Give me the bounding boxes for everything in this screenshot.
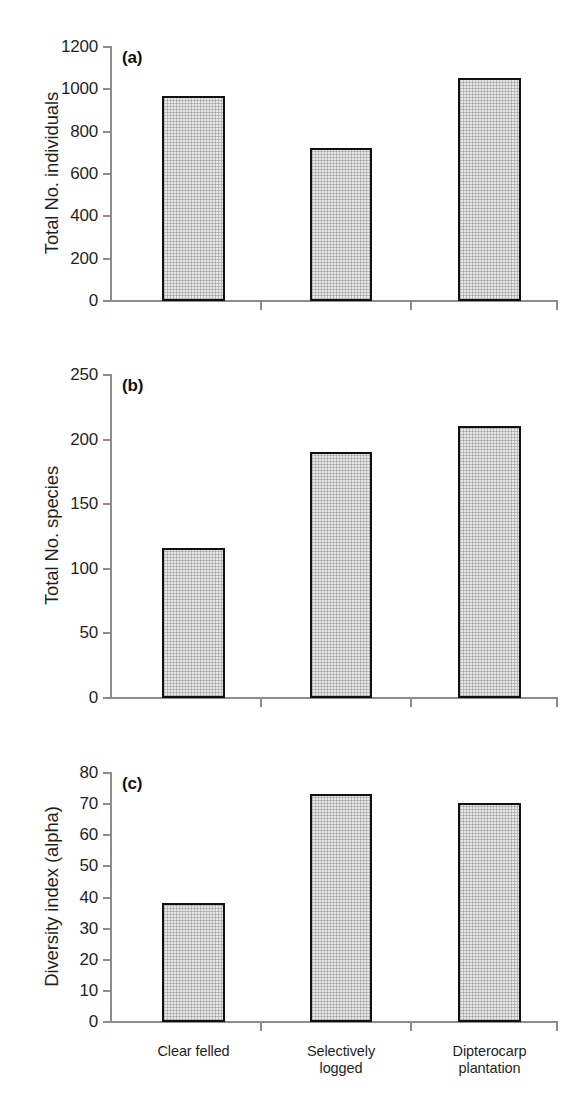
panel-a-y-tick-label: 400 xyxy=(70,207,98,224)
bar-b-0 xyxy=(162,548,225,698)
bar-c-1 xyxy=(310,794,372,1022)
panel-a-x-tick-end xyxy=(556,302,558,310)
bar-c-2 xyxy=(458,803,521,1022)
panel-a-y-tick-label: 0 xyxy=(89,292,98,309)
panel-c-y-tick xyxy=(103,897,110,899)
panel-b-y-tick-label: 100 xyxy=(70,560,98,577)
panel-b-y-tick-label: 0 xyxy=(89,689,98,706)
panel-a-plot-area: 020040060080010001200 xyxy=(0,0,578,345)
panel-b-y-tick xyxy=(103,632,110,634)
panel-b-x-tick xyxy=(410,699,412,707)
panel-a-tag: (a) xyxy=(122,48,142,68)
panel-c-y-axis-title: Diversity index (alpha) xyxy=(42,772,61,1021)
panel-c-tag: (c) xyxy=(122,774,142,794)
panel-a-y-tick xyxy=(103,300,110,302)
panel-b-y-axis-title: Total No. species xyxy=(42,374,61,697)
panel-c-y-tick xyxy=(103,1021,110,1023)
panel-b-y-tick xyxy=(103,374,110,376)
panel-c-y-tick-label: 30 xyxy=(79,920,98,937)
panel-c-y-tick xyxy=(103,990,110,992)
panel-b-y-tick-label: 250 xyxy=(70,366,98,383)
panel-c-x-tick-end xyxy=(556,1023,558,1031)
panel-a-y-tick-label: 800 xyxy=(70,123,98,140)
panel-a-y-tick-label: 1000 xyxy=(61,80,98,97)
panel-a-y-tick xyxy=(103,173,110,175)
category-label-1: Selectively logged xyxy=(271,1043,411,1077)
category-label-0: Clear felled xyxy=(124,1043,264,1060)
panel-a-y-tick xyxy=(103,46,110,48)
panel-a-y-tick xyxy=(103,131,110,133)
panel-b-y-tick-label: 200 xyxy=(70,431,98,448)
panel-c-y-tick-label: 70 xyxy=(79,795,98,812)
panel-a-x-tick xyxy=(410,302,412,310)
panel-b-x-tick-end xyxy=(556,699,558,707)
bar-a-0 xyxy=(162,96,225,301)
panel-a-y-axis-line xyxy=(110,46,112,302)
panel-c-y-axis-line xyxy=(110,772,112,1023)
panel-a-y-tick-label: 200 xyxy=(70,250,98,267)
panel-b-y-axis-line xyxy=(110,374,112,699)
panel-c-x-tick xyxy=(260,1023,262,1031)
panel-b: 050100150200250 (b) Total No. species xyxy=(0,345,578,737)
panel-b-y-tick xyxy=(103,439,110,441)
figure-panels: 020040060080010001200 (a) Total No. indi… xyxy=(0,0,578,1111)
panel-b-y-tick xyxy=(103,503,110,505)
panel-b-y-tick xyxy=(103,697,110,699)
panel-c-y-tick-label: 0 xyxy=(89,1013,98,1030)
panel-b-x-tick xyxy=(260,699,262,707)
panel-c-y-tick xyxy=(103,803,110,805)
panel-a-y-tick-label: 600 xyxy=(70,165,98,182)
bar-a-2 xyxy=(458,78,521,301)
bar-b-1 xyxy=(310,452,372,698)
panel-b-y-tick-label: 150 xyxy=(70,495,98,512)
panel-c-y-tick-label: 50 xyxy=(79,857,98,874)
panel-c-y-tick-label: 80 xyxy=(79,764,98,781)
panel-c-y-tick xyxy=(103,772,110,774)
panel-c-y-tick-label: 40 xyxy=(79,889,98,906)
panel-c-y-tick-label: 10 xyxy=(79,982,98,999)
panel-c-y-tick xyxy=(103,928,110,930)
panel-c-y-tick xyxy=(103,865,110,867)
panel-b-plot-area: 050100150200250 xyxy=(0,345,578,737)
panel-a-y-tick xyxy=(103,215,110,217)
panel-a-x-tick xyxy=(260,302,262,310)
panel-a-y-axis-title: Total No. individuals xyxy=(42,46,61,300)
panel-a-y-tick xyxy=(103,258,110,260)
panel-c: 01020304050607080 (c) Diversity index (a… xyxy=(0,737,578,1111)
panel-c-y-tick xyxy=(103,834,110,836)
panel-c-x-tick xyxy=(410,1023,412,1031)
panel-a-y-tick-label: 1200 xyxy=(61,38,98,55)
panel-c-y-tick-label: 20 xyxy=(79,951,98,968)
panel-a: 020040060080010001200 (a) Total No. indi… xyxy=(0,0,578,345)
category-label-2: Dipterocarp plantation xyxy=(420,1043,560,1077)
panel-b-y-tick xyxy=(103,568,110,570)
panel-a-y-tick xyxy=(103,88,110,90)
panel-c-y-tick-label: 60 xyxy=(79,826,98,843)
panel-c-y-tick xyxy=(103,959,110,961)
bar-a-1 xyxy=(310,148,372,301)
panel-b-tag: (b) xyxy=(122,376,143,396)
bar-c-0 xyxy=(162,903,225,1022)
panel-b-y-tick-label: 50 xyxy=(79,624,98,641)
bar-b-2 xyxy=(458,426,521,698)
